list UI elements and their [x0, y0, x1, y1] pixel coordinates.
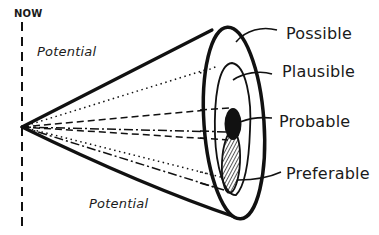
possible-label: Possible — [286, 24, 352, 43]
plausible-line-bottom — [22, 127, 225, 178]
plausible-label: Plausible — [282, 62, 355, 81]
probable-area — [225, 108, 242, 140]
preferable-line-bottom — [22, 127, 224, 190]
plausible-line-top — [22, 66, 218, 127]
potential-label-bottom: Potential — [89, 196, 148, 211]
potential-label-top: Potential — [37, 44, 96, 59]
preferable-label: Preferable — [286, 164, 370, 183]
probable-label: Probable — [279, 112, 350, 131]
preferable-line-top — [22, 127, 226, 132]
now-label: NOW — [14, 8, 43, 19]
